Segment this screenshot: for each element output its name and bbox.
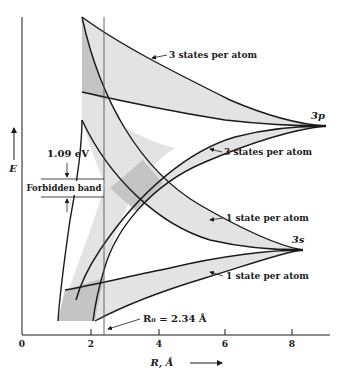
gap-value-label: 1.09 eV: [47, 148, 89, 159]
label-s-upper: 1 state per atom: [226, 213, 309, 223]
level-3s-label: 3s: [292, 234, 305, 245]
level-3p-label: 3p: [311, 110, 325, 121]
svg-text:6: 6: [222, 339, 228, 349]
svg-text:2: 2: [88, 339, 94, 349]
label-p-upper: 3 states per atom: [169, 50, 257, 60]
gap-label: Forbidden band: [27, 183, 102, 193]
svg-text:0: 0: [19, 339, 25, 349]
label-p-lower: 3 states per atom: [224, 147, 312, 157]
band-3p-upper: [82, 17, 325, 126]
x-ticks: [91, 329, 292, 335]
svg-text:4: 4: [156, 339, 162, 349]
x-axis-label: R, Å: [149, 357, 173, 369]
r0-pointer: [108, 319, 140, 329]
r0-label: R₀ = 2.34 Å: [143, 313, 207, 324]
y-axis-label: E: [8, 163, 17, 174]
svg-text:8: 8: [289, 339, 295, 349]
pointer-p-upper: [152, 55, 167, 58]
x-tick-labels: 0 2 4 6 8: [19, 339, 295, 349]
label-s-lower: 1 state per atom: [226, 271, 309, 281]
energy-band-diagram: 0 2 4 6 8 R, Å E 3p 3s 3 states per atom…: [0, 0, 342, 373]
